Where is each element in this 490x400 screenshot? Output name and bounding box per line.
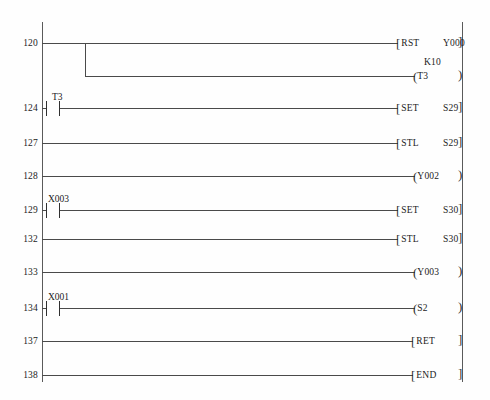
rung-138-wire — [42, 375, 413, 376]
bracket-open-icon: [ — [396, 137, 400, 150]
step-number-134: 134 — [14, 303, 38, 313]
bracket-open-icon: [ — [396, 37, 400, 50]
step-number-128: 128 — [14, 171, 38, 181]
rung-127-wire — [42, 143, 398, 144]
coil-y003[interactable]: ( Y003 — [413, 264, 439, 280]
instruction-mnemonic-rst: RST — [401, 38, 419, 48]
rung-137-wire — [42, 341, 413, 342]
instruction-mnemonic-ret: RET — [416, 336, 435, 346]
bracket-close-icon-ret: ] — [458, 333, 462, 346]
instruction-operand-s29-stl: S29 — [443, 138, 458, 148]
step-number-120-slot: 120 — [10, 38, 38, 48]
bracket-close-icon-stl-s30: ] — [458, 231, 462, 244]
instruction-set-s30[interactable]: [ SET S30 — [396, 202, 419, 218]
instruction-operand-s30-stl: S30 — [443, 234, 458, 244]
paren-close-icon-y002: ) — [458, 168, 462, 181]
instruction-mnemonic-end: END — [416, 370, 436, 380]
step-number-127-slot: 127 — [10, 138, 38, 148]
bracket-open-icon: [ — [411, 369, 415, 382]
instruction-mnemonic-set-1: SET — [401, 103, 419, 113]
instruction-operand-s30-set: S30 — [443, 205, 458, 215]
rung-132-wire — [42, 239, 398, 240]
coil-name-s2: S2 — [417, 303, 427, 313]
instruction-operand-s29-set: S29 — [443, 103, 458, 113]
left-power-rail — [42, 22, 43, 382]
bracket-open-icon: [ — [411, 335, 415, 348]
bracket-open-icon: [ — [396, 233, 400, 246]
paren-close-icon-t3: ) — [458, 68, 462, 81]
step-number-127: 127 — [14, 138, 38, 148]
step-number-120: 120 — [14, 38, 38, 48]
bracket-open-icon: [ — [396, 102, 400, 115]
coil-name-t3: T3 — [417, 71, 428, 81]
contact-bar-left — [46, 301, 47, 316]
rung-timer-wire — [85, 76, 415, 77]
step-number-124: 124 — [14, 103, 38, 113]
coil-y002[interactable]: ( Y002 — [413, 168, 439, 184]
bracket-open-icon: [ — [396, 204, 400, 217]
instruction-set-s29[interactable]: [ SET S29 — [396, 100, 419, 116]
instruction-ret[interactable]: [ RET — [411, 333, 435, 349]
step-number-138: 138 — [14, 370, 38, 380]
coil-t3[interactable]: ( T3 — [413, 68, 428, 84]
paren-close-icon-y003: ) — [458, 264, 462, 277]
no-contact-x001[interactable] — [42, 301, 64, 316]
step-number-132-slot: 132 — [10, 234, 38, 244]
bracket-close-icon-rst: ] — [458, 35, 462, 48]
rung-124-wire — [64, 108, 398, 109]
step-number-133: 133 — [14, 267, 38, 277]
rung-120-wire — [42, 43, 398, 44]
step-number-138-slot: 138 — [10, 370, 38, 380]
step-number-133-slot: 133 — [10, 267, 38, 277]
step-number-137: 137 — [14, 336, 38, 346]
step-number-137-slot: 137 — [10, 336, 38, 346]
instruction-stl-s29[interactable]: [ STL S29 — [396, 135, 419, 151]
instruction-end[interactable]: [ END — [411, 367, 436, 383]
bracket-close-icon-set-s29: ] — [458, 100, 462, 113]
instruction-rst-y000[interactable]: [ RST Y000 — [396, 35, 419, 51]
branch-vertical-connector — [85, 43, 86, 76]
instruction-mnemonic-stl-1: STL — [401, 138, 419, 148]
step-number-128-slot: 128 — [10, 171, 38, 181]
instruction-mnemonic-set-2: SET — [401, 205, 419, 215]
coil-s2[interactable]: ( S2 — [413, 300, 428, 316]
bracket-close-icon-set-s30: ] — [458, 202, 462, 215]
rung-128-wire — [42, 176, 415, 177]
bracket-close-icon-stl-s29: ] — [458, 135, 462, 148]
instruction-stl-s30[interactable]: [ STL S30 — [396, 231, 419, 247]
rung-133-wire — [42, 272, 415, 273]
contact-bar-left — [46, 101, 47, 116]
step-number-134-slot: 134 — [10, 303, 38, 313]
coil-name-y002: Y002 — [417, 171, 439, 181]
ladder-diagram-canvas: 120 [ RST Y000 ] K10 ( T3 ) 124 T3 [ SET… — [0, 0, 490, 400]
instruction-mnemonic-stl-2: STL — [401, 234, 419, 244]
timer-preset-k10: K10 — [424, 57, 441, 67]
step-number-124-slot: 124 — [10, 103, 38, 113]
step-number-129-slot: 129 — [10, 205, 38, 215]
paren-close-icon-s2: ) — [458, 300, 462, 313]
step-number-132: 132 — [14, 234, 38, 244]
no-contact-x003[interactable] — [42, 203, 64, 218]
step-number-129: 129 — [14, 205, 38, 215]
rung-129-wire — [64, 210, 398, 211]
contact-bar-left — [46, 203, 47, 218]
rung-134-wire — [64, 308, 415, 309]
coil-name-y003: Y003 — [417, 267, 439, 277]
bracket-close-icon-end: ] — [458, 367, 462, 380]
no-contact-t3[interactable] — [42, 101, 64, 116]
